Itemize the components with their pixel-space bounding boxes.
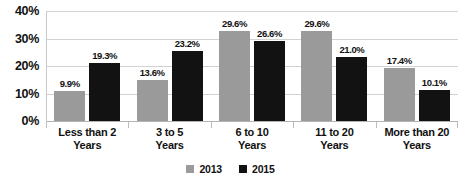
plot-area: 40% 30% 20% 10% 0% 9.9% 19.3% bbox=[0, 0, 461, 158]
category-label-line2: Years bbox=[211, 139, 293, 152]
bar-value-label: 29.6% bbox=[222, 18, 247, 29]
bar-fill bbox=[172, 51, 203, 121]
category-label-line1: More than 20 bbox=[384, 126, 449, 138]
bar-group: 17.4% 10.1% bbox=[376, 11, 458, 121]
bar-value-label: 10.1% bbox=[422, 77, 447, 88]
bar-groups: 9.9% 19.3% 13.6% 23.2% bbox=[46, 11, 458, 121]
bar-2013[interactable]: 13.6% bbox=[137, 80, 168, 121]
legend-item-2013[interactable]: 2013 bbox=[186, 163, 222, 175]
y-axis-tick-label: 30% bbox=[15, 32, 39, 46]
y-axis-tick-label: 10% bbox=[15, 87, 39, 101]
bar-2015[interactable]: 23.2% bbox=[172, 51, 203, 121]
bar-2013[interactable]: 29.6% bbox=[219, 31, 250, 121]
legend-swatch-icon bbox=[239, 165, 247, 173]
bar-2013[interactable]: 9.9% bbox=[54, 91, 85, 121]
bar-group: 29.6% 21.0% bbox=[293, 11, 375, 121]
bar-value-label: 29.6% bbox=[304, 18, 329, 29]
grouped-bar-chart: 40% 30% 20% 10% 0% 9.9% 19.3% bbox=[0, 0, 461, 193]
bar-2015[interactable]: 21.0% bbox=[336, 57, 367, 121]
category-label-line1: 3 to 5 bbox=[156, 126, 183, 138]
category-label-line2: Years bbox=[46, 139, 128, 152]
legend-label: 2015 bbox=[252, 163, 275, 175]
bar-value-label: 23.2% bbox=[175, 38, 200, 49]
category-label-line1: Less than 2 bbox=[58, 126, 116, 138]
bar-2015[interactable]: 10.1% bbox=[419, 90, 450, 121]
bar-value-label: 17.4% bbox=[387, 55, 412, 66]
bar-group: 29.6% 26.6% bbox=[211, 11, 293, 121]
legend-item-2015[interactable]: 2015 bbox=[239, 163, 275, 175]
y-axis-tick-label: 0% bbox=[22, 114, 39, 128]
bar-2013[interactable]: 29.6% bbox=[301, 31, 332, 121]
y-axis-tick-label: 40% bbox=[15, 4, 39, 18]
bar-fill bbox=[384, 68, 415, 121]
bar-group: 13.6% 23.2% bbox=[128, 11, 210, 121]
bar-value-label: 13.6% bbox=[140, 67, 165, 78]
category-label: More than 20 Years bbox=[376, 126, 458, 151]
bar-fill bbox=[137, 80, 168, 121]
category-label-line1: 6 to 10 bbox=[235, 126, 268, 138]
bar-2013[interactable]: 17.4% bbox=[384, 68, 415, 121]
category-label-line2: Years bbox=[293, 139, 375, 152]
category-label: 6 to 10 Years bbox=[211, 126, 293, 151]
bar-fill bbox=[54, 91, 85, 121]
bar-fill bbox=[419, 90, 450, 121]
x-axis-category-labels: Less than 2 Years 3 to 5 Years 6 to 10 Y… bbox=[46, 126, 458, 151]
category-label-line1: 11 to 20 bbox=[315, 126, 353, 138]
category-label: Less than 2 Years bbox=[46, 126, 128, 151]
bar-2015[interactable]: 26.6% bbox=[254, 41, 285, 121]
y-axis-tick-label: 20% bbox=[15, 59, 39, 73]
category-label: 11 to 20 Years bbox=[293, 126, 375, 151]
category-label-line2: Years bbox=[128, 139, 210, 152]
category-label: 3 to 5 Years bbox=[128, 126, 210, 151]
bar-fill bbox=[219, 31, 250, 121]
bar-fill bbox=[301, 31, 332, 121]
bar-2015[interactable]: 19.3% bbox=[89, 63, 120, 121]
bar-value-label: 19.3% bbox=[92, 50, 117, 61]
category-label-line2: Years bbox=[376, 139, 458, 152]
y-axis-tick-labels: 40% 30% 20% 10% 0% bbox=[0, 11, 46, 121]
bar-group: 9.9% 19.3% bbox=[46, 11, 128, 121]
legend-swatch-icon bbox=[186, 165, 194, 173]
bar-fill bbox=[89, 63, 120, 121]
bar-fill bbox=[254, 41, 285, 121]
chart-legend: 2013 2015 bbox=[0, 163, 461, 175]
bar-value-label: 21.0% bbox=[339, 44, 364, 55]
bar-value-label: 9.9% bbox=[60, 78, 80, 89]
bar-fill bbox=[336, 57, 367, 121]
bar-value-label: 26.6% bbox=[257, 28, 282, 39]
legend-label: 2013 bbox=[199, 163, 222, 175]
